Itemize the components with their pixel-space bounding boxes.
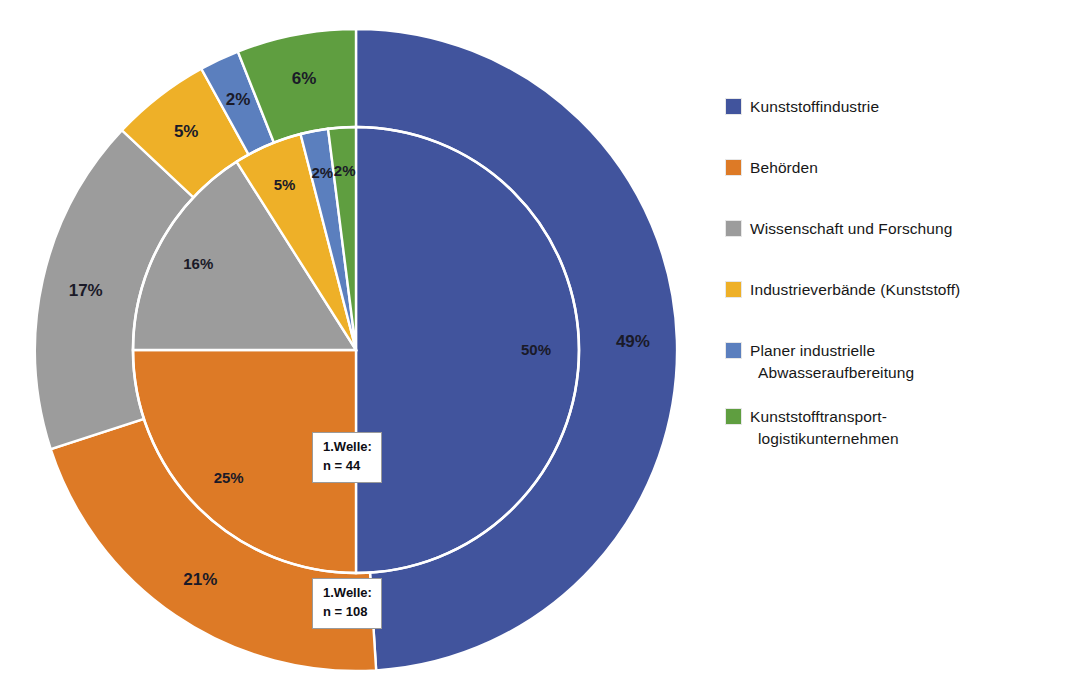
chart-legend: KunststoffindustrieBehördenWissenschaft … [726, 96, 1066, 472]
legend-label-logistik: Kunststofftransport-logistikunternehmen [750, 406, 899, 450]
callout-outer-line2: n = 108 [323, 603, 372, 622]
slice-label-inner-kunststoffindustrie: 50% [521, 341, 551, 358]
callout-outer-ring: 1.Welle: n = 108 [312, 578, 382, 629]
slice-label-outer-kunststoffindustrie: 49% [616, 332, 650, 351]
legend-swatch-icon-logistik [726, 409, 741, 424]
slice-label-outer-planer: 2% [226, 90, 251, 109]
legend-swatch-icon-industrieverbaende [726, 282, 741, 297]
callout-inner-line2: n = 44 [323, 457, 372, 476]
legend-label-planer: Planer industrielleAbwasseraufbereitung [750, 340, 914, 384]
legend-swatch-icon-kunststoffindustrie [726, 99, 741, 114]
legend-swatch-icon-planer [726, 343, 741, 358]
legend-label-line1-planer: Planer industrielle [750, 340, 914, 362]
legend-item-industrieverbaende[interactable]: Industrieverbände (Kunststoff) [726, 279, 1066, 301]
legend-item-behoerden[interactable]: Behörden [726, 157, 1066, 179]
inner-ring [133, 127, 579, 573]
legend-label-industrieverbaende: Industrieverbände (Kunststoff) [750, 279, 960, 301]
legend-swatch-icon-behoerden [726, 160, 741, 175]
legend-item-wissenschaft[interactable]: Wissenschaft und Forschung [726, 218, 1066, 240]
legend-label-line2-planer: Abwasseraufbereitung [750, 362, 914, 384]
slice-label-inner-industrieverbaende: 5% [274, 176, 296, 193]
slice-label-outer-industrieverbaende: 5% [174, 122, 199, 141]
legend-swatch-icon-wissenschaft [726, 221, 741, 236]
legend-label-kunststoffindustrie: Kunststoffindustrie [750, 96, 879, 118]
slice-label-outer-wissenschaft: 17% [69, 281, 103, 300]
legend-label-wissenschaft: Wissenschaft und Forschung [750, 218, 952, 240]
callout-inner-line1: 1.Welle: [323, 438, 372, 457]
legend-item-logistik[interactable]: Kunststofftransport-logistikunternehmen [726, 406, 1066, 450]
slice-label-outer-logistik: 6% [292, 69, 317, 88]
slice-label-inner-planer: 2% [311, 164, 333, 181]
nested-pie-chart: 49%21%17%5%2%6% 50%25%16%5%2%2% 1.Welle:… [0, 0, 1082, 684]
callout-outer-line1: 1.Welle: [323, 584, 372, 603]
legend-item-kunststoffindustrie[interactable]: Kunststoffindustrie [726, 96, 1066, 118]
legend-label-line2-logistik: logistikunternehmen [750, 428, 899, 450]
legend-label-line1-logistik: Kunststofftransport- [750, 406, 899, 428]
slice-label-inner-wissenschaft: 16% [183, 255, 213, 272]
callout-inner-ring: 1.Welle: n = 44 [312, 432, 382, 483]
legend-item-planer[interactable]: Planer industrielleAbwasseraufbereitung [726, 340, 1066, 384]
slice-label-inner-behoerden: 25% [214, 469, 244, 486]
legend-label-behoerden: Behörden [750, 157, 818, 179]
slice-label-inner-logistik: 2% [334, 162, 356, 179]
slice-label-outer-behoerden: 21% [183, 570, 217, 589]
